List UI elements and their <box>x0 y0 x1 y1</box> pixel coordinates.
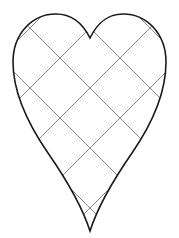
canvas-root <box>0 0 179 238</box>
heart-figure <box>0 0 179 238</box>
